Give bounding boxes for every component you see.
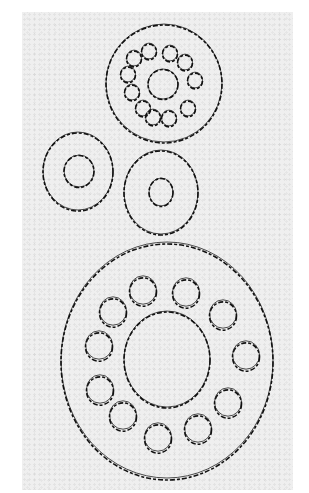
- hub-hole-edge: [124, 312, 210, 408]
- bolt-hole: [181, 100, 196, 116]
- bolt-hole-edge: [100, 299, 127, 327]
- bolt-hole: [110, 401, 137, 429]
- bolt-hole: [178, 54, 193, 70]
- bolt-hole: [100, 297, 127, 325]
- bolt-hole-edge: [127, 51, 142, 67]
- bolt-hole: [86, 331, 113, 359]
- bolt-hole: [215, 388, 242, 416]
- bolt-hole: [127, 50, 142, 66]
- bolt-hole-edge: [181, 101, 196, 117]
- bolt-hole-edge: [86, 333, 113, 361]
- bolt-hole-edge: [233, 343, 260, 371]
- bolt-hole: [121, 66, 136, 82]
- bolt-hole-edge: [110, 403, 137, 431]
- bolt-hole: [146, 109, 161, 125]
- bolt-hole-edge: [173, 280, 200, 308]
- bolt-hole-edge: [178, 55, 193, 71]
- hub-hole-edge: [64, 156, 94, 188]
- bolt-hole: [125, 84, 140, 100]
- bolt-hole: [210, 300, 237, 328]
- small-flange-top: [106, 24, 222, 143]
- bolt-hole: [145, 423, 172, 451]
- bolt-hole-edge: [136, 101, 151, 117]
- large-flange-bottom: [61, 242, 273, 480]
- bolt-hole: [173, 278, 200, 306]
- bolt-hole-edge: [210, 302, 237, 330]
- bolt-hole: [130, 276, 157, 304]
- washer-right: [124, 150, 198, 235]
- bolt-hole-edge: [142, 44, 157, 60]
- bolt-hole-edge: [87, 377, 114, 405]
- bolt-hole-edge: [125, 85, 140, 101]
- bolt-hole: [142, 43, 157, 59]
- bolt-hole-edge: [130, 278, 157, 306]
- bolt-hole-edge: [145, 425, 172, 453]
- bolt-hole-edge: [185, 416, 212, 444]
- washer-left: [43, 132, 113, 211]
- bolt-hole: [185, 414, 212, 442]
- bolt-hole-edge: [121, 67, 136, 83]
- bolt-hole: [233, 341, 260, 369]
- parts-drawing: [0, 0, 309, 493]
- bolt-hole-edge: [215, 390, 242, 418]
- bolt-hole: [136, 100, 151, 116]
- bolt-hole: [163, 45, 178, 61]
- bolt-hole-edge: [163, 46, 178, 62]
- bolt-hole: [87, 375, 114, 403]
- bolt-hole: [188, 72, 203, 88]
- outer-edge-edge: [124, 151, 198, 235]
- bolt-hole-edge: [188, 73, 203, 89]
- bolt-hole-edge: [162, 111, 177, 127]
- bolt-hole: [162, 110, 177, 126]
- bolt-hole-edge: [146, 110, 161, 126]
